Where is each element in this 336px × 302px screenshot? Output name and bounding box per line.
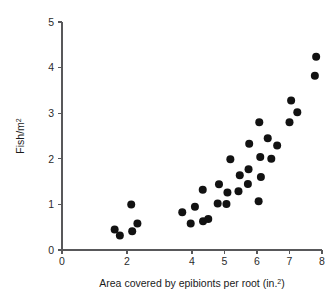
y-tick-label: 0 xyxy=(48,244,54,256)
data-points-group xyxy=(111,53,321,240)
y-tick-label: 2 xyxy=(48,153,54,165)
y-tick-label: 4 xyxy=(48,61,54,73)
data-point xyxy=(226,155,234,163)
y-axis-title: Fish/m2 xyxy=(14,118,26,154)
data-point xyxy=(287,96,295,104)
y-tick-label: 1 xyxy=(48,198,54,210)
x-tick-label: 5 xyxy=(222,255,228,267)
data-point xyxy=(244,180,252,188)
data-point xyxy=(293,108,301,116)
data-point xyxy=(187,220,195,228)
data-point xyxy=(178,208,186,216)
data-point xyxy=(127,200,135,208)
scatter-plot-figure: 0245678012345Area covered by epibionts p… xyxy=(0,0,336,302)
data-point xyxy=(234,187,242,195)
data-point xyxy=(236,171,244,179)
x-axis-title: Area covered by epibionts per root (in.2… xyxy=(99,277,284,289)
x-tick-label: 6 xyxy=(254,255,260,267)
data-point xyxy=(204,215,212,223)
data-point xyxy=(255,118,263,126)
data-point xyxy=(191,203,199,211)
data-point xyxy=(215,180,223,188)
data-point xyxy=(311,72,319,80)
data-point xyxy=(245,165,253,173)
data-point xyxy=(214,199,222,207)
y-tick-label: 3 xyxy=(48,107,54,119)
data-point xyxy=(257,173,265,181)
x-tick-label: 2 xyxy=(124,255,130,267)
chart-svg: 0245678012345Area covered by epibionts p… xyxy=(0,0,336,302)
data-point xyxy=(256,153,264,161)
data-point xyxy=(128,227,136,235)
x-tick-label: 7 xyxy=(287,255,293,267)
data-point xyxy=(273,142,281,150)
data-point xyxy=(133,220,141,228)
data-point xyxy=(199,186,207,194)
data-point xyxy=(264,134,272,142)
data-point xyxy=(312,53,320,61)
data-point xyxy=(222,200,230,208)
data-point xyxy=(245,140,253,148)
y-tick-label: 5 xyxy=(48,16,54,28)
x-tick-label: 0 xyxy=(59,255,65,267)
x-tick-label: 4 xyxy=(189,255,195,267)
x-tick-label: 8 xyxy=(319,255,325,267)
data-point xyxy=(255,197,263,205)
data-point xyxy=(223,189,231,197)
data-point xyxy=(267,155,275,163)
data-point xyxy=(286,118,294,126)
data-point xyxy=(116,231,124,239)
